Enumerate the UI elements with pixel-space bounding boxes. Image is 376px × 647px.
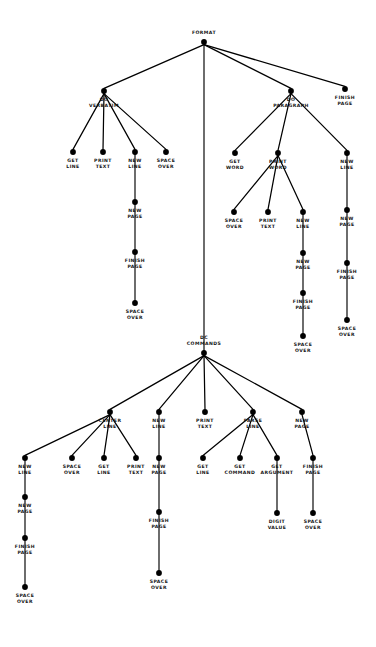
tree-node-dot[interactable] (200, 455, 206, 461)
tree-node-dot[interactable] (132, 300, 138, 306)
tree-node-dot[interactable] (201, 350, 207, 356)
tree-node-dot[interactable] (156, 509, 162, 515)
tree-edge (234, 156, 278, 210)
tree-node-dot[interactable] (288, 88, 294, 94)
tree-node-dot[interactable] (156, 455, 162, 461)
tree-node-dot[interactable] (163, 149, 169, 155)
tree-node-layer (22, 39, 350, 590)
tree-node-dot[interactable] (22, 584, 28, 590)
tree-node-dot[interactable] (231, 209, 237, 215)
tree-edge (73, 94, 104, 150)
tree-edge (104, 94, 166, 150)
tree-node-dot[interactable] (101, 88, 107, 94)
tree-edge (159, 356, 204, 410)
tree-node-dot[interactable] (300, 333, 306, 339)
tree-node-dot[interactable] (22, 455, 28, 461)
tree-edge (253, 415, 277, 456)
tree-edge (110, 356, 204, 410)
tree-diagram-canvas (0, 0, 376, 647)
tree-node-dot[interactable] (300, 209, 306, 215)
tree-edge (268, 156, 278, 210)
tree-node-dot[interactable] (250, 409, 256, 415)
tree-node-dot[interactable] (22, 494, 28, 500)
tree-node-dot[interactable] (69, 455, 75, 461)
tree-node-dot[interactable] (310, 455, 316, 461)
tree-edge (25, 415, 110, 456)
tree-node-dot[interactable] (310, 510, 316, 516)
tree-node-dot[interactable] (344, 260, 350, 266)
tree-node-dot[interactable] (300, 250, 306, 256)
tree-edge (103, 94, 104, 150)
tree-edge (278, 94, 291, 151)
tree-edge (235, 94, 291, 151)
tree-node-dot[interactable] (300, 290, 306, 296)
tree-edge (240, 415, 253, 456)
tree-node-dot[interactable] (299, 409, 305, 415)
tree-node-dot[interactable] (344, 317, 350, 323)
tree-node-dot[interactable] (133, 455, 139, 461)
tree-node-dot[interactable] (232, 150, 238, 156)
tree-node-dot[interactable] (344, 150, 350, 156)
tree-edge (104, 94, 135, 150)
tree-edge (204, 356, 302, 410)
tree-edge (104, 45, 204, 89)
tree-edge (291, 94, 347, 151)
tree-edge (204, 356, 253, 410)
tree-node-dot[interactable] (265, 209, 271, 215)
tree-node-dot[interactable] (275, 150, 281, 156)
tree-node-dot[interactable] (156, 570, 162, 576)
tree-edge (204, 356, 205, 410)
tree-node-dot[interactable] (342, 86, 348, 92)
tree-node-dot[interactable] (156, 409, 162, 415)
tree-edge (203, 415, 253, 456)
tree-node-dot[interactable] (107, 409, 113, 415)
tree-node-dot[interactable] (101, 455, 107, 461)
tree-node-dot[interactable] (202, 409, 208, 415)
tree-node-dot[interactable] (100, 149, 106, 155)
tree-node-dot[interactable] (70, 149, 76, 155)
tree-node-dot[interactable] (132, 249, 138, 255)
tree-edge (110, 415, 136, 456)
tree-node-dot[interactable] (274, 455, 280, 461)
tree-node-dot[interactable] (344, 207, 350, 213)
tree-edge (278, 156, 303, 210)
tree-edge-layer (25, 45, 347, 585)
tree-node-dot[interactable] (22, 535, 28, 541)
tree-node-dot[interactable] (132, 149, 138, 155)
tree-edge (302, 415, 313, 456)
tree-node-dot[interactable] (132, 199, 138, 205)
tree-node-dot[interactable] (237, 455, 243, 461)
tree-node-dot[interactable] (201, 39, 207, 45)
tree-node-dot[interactable] (274, 510, 280, 516)
